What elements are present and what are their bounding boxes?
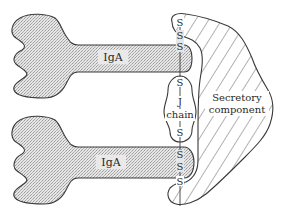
sIgA-diagram: IgA IgA S S S S J chain S S S S Se [0, 0, 283, 217]
j-chain-label-chain: chain [166, 109, 194, 120]
disulfide-s-label: S [177, 41, 184, 52]
disulfide-s-label: S [177, 149, 184, 160]
j-chain-label-j: J [177, 96, 182, 107]
disulfide-s-label: S [177, 30, 184, 41]
disulfide-s-label: S [177, 17, 184, 28]
disulfide-s-label: S [177, 161, 184, 172]
disulfide-s-label: S [177, 176, 184, 187]
disulfide-s-label: S [177, 127, 184, 138]
disulfide-labels-bottom: S S S S [176, 127, 184, 187]
secretory-label-line1: Secretory [212, 92, 262, 103]
iga-bottom-label: IgA [101, 156, 121, 169]
secretory-label-line2: component [209, 104, 265, 115]
iga-top-label: IgA [103, 51, 123, 64]
disulfide-s-label: S [177, 77, 184, 88]
